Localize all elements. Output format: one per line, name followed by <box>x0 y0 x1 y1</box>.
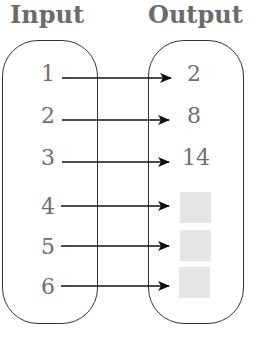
mapping-arrows <box>0 0 253 339</box>
